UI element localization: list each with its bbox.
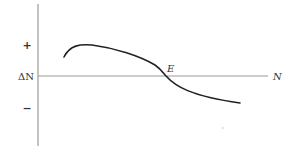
plus-label: + — [22, 39, 31, 52]
minus-label: − — [22, 102, 31, 115]
x-axis-label: N — [272, 71, 283, 82]
speck-mark — [222, 127, 224, 129]
equilibrium-label: E — [166, 63, 175, 74]
y-axis-label: ΔN — [18, 71, 34, 82]
diagram-canvas: + − ΔN E N — [0, 0, 295, 157]
delta-n-curve — [64, 45, 240, 103]
